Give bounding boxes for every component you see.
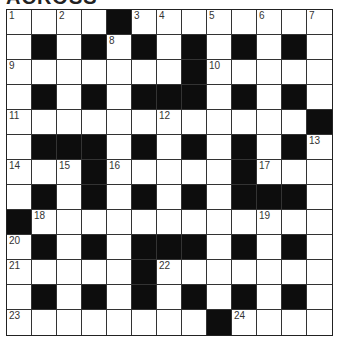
grid-cell[interactable]: 15 xyxy=(57,160,82,185)
grid-cell[interactable] xyxy=(107,210,132,235)
grid-cell[interactable] xyxy=(307,310,332,335)
grid-cell[interactable] xyxy=(107,60,132,85)
grid-cell[interactable] xyxy=(132,310,157,335)
grid-cell[interactable] xyxy=(157,210,182,235)
grid-cell[interactable] xyxy=(7,85,32,110)
grid-cell[interactable] xyxy=(182,10,207,35)
grid-cell[interactable] xyxy=(207,260,232,285)
grid-cell[interactable] xyxy=(307,60,332,85)
grid-cell[interactable] xyxy=(232,260,257,285)
grid-cell[interactable] xyxy=(257,235,282,260)
grid-cell[interactable] xyxy=(282,160,307,185)
grid-cell[interactable] xyxy=(82,60,107,85)
grid-cell[interactable]: 14 xyxy=(7,160,32,185)
grid-cell[interactable] xyxy=(57,60,82,85)
grid-cell[interactable]: 5 xyxy=(207,10,232,35)
grid-cell[interactable]: 9 xyxy=(7,60,32,85)
grid-cell[interactable]: 12 xyxy=(157,110,182,135)
grid-cell[interactable]: 21 xyxy=(7,260,32,285)
grid-cell[interactable] xyxy=(107,110,132,135)
grid-cell[interactable] xyxy=(157,60,182,85)
grid-cell[interactable] xyxy=(57,35,82,60)
grid-cell[interactable]: 19 xyxy=(257,210,282,235)
grid-cell[interactable] xyxy=(7,135,32,160)
grid-cell[interactable]: 1 xyxy=(7,10,32,35)
grid-cell[interactable]: 22 xyxy=(157,260,182,285)
grid-cell[interactable] xyxy=(257,285,282,310)
grid-cell[interactable] xyxy=(132,160,157,185)
grid-cell[interactable]: 18 xyxy=(32,210,57,235)
grid-cell[interactable]: 23 xyxy=(7,310,32,335)
grid-cell[interactable] xyxy=(107,235,132,260)
grid-cell[interactable] xyxy=(82,310,107,335)
grid-cell[interactable] xyxy=(207,185,232,210)
grid-cell[interactable] xyxy=(257,310,282,335)
grid-cell[interactable] xyxy=(32,60,57,85)
grid-cell[interactable] xyxy=(257,110,282,135)
grid-cell[interactable] xyxy=(257,85,282,110)
grid-cell[interactable] xyxy=(182,210,207,235)
grid-cell[interactable] xyxy=(132,60,157,85)
grid-cell[interactable] xyxy=(307,160,332,185)
grid-cell[interactable] xyxy=(232,210,257,235)
grid-cell[interactable] xyxy=(57,235,82,260)
grid-cell[interactable]: 8 xyxy=(107,35,132,60)
grid-cell[interactable] xyxy=(207,160,232,185)
grid-cell[interactable]: 2 xyxy=(57,10,82,35)
grid-cell[interactable] xyxy=(157,35,182,60)
grid-cell[interactable] xyxy=(207,210,232,235)
grid-cell[interactable] xyxy=(157,285,182,310)
grid-cell[interactable] xyxy=(32,110,57,135)
grid-cell[interactable]: 10 xyxy=(207,60,232,85)
grid-cell[interactable] xyxy=(307,85,332,110)
grid-cell[interactable]: 3 xyxy=(132,10,157,35)
grid-cell[interactable] xyxy=(32,10,57,35)
grid-cell[interactable]: 13 xyxy=(307,135,332,160)
grid-cell[interactable] xyxy=(157,185,182,210)
grid-cell[interactable]: 11 xyxy=(7,110,32,135)
grid-cell[interactable] xyxy=(207,110,232,135)
grid-cell[interactable] xyxy=(207,235,232,260)
grid-cell[interactable] xyxy=(82,10,107,35)
grid-cell[interactable] xyxy=(307,185,332,210)
grid-cell[interactable] xyxy=(182,260,207,285)
grid-cell[interactable] xyxy=(207,85,232,110)
grid-cell[interactable] xyxy=(57,210,82,235)
grid-cell[interactable] xyxy=(132,110,157,135)
grid-cell[interactable] xyxy=(282,110,307,135)
grid-cell[interactable] xyxy=(7,285,32,310)
grid-cell[interactable] xyxy=(57,110,82,135)
grid-cell[interactable] xyxy=(132,210,157,235)
grid-cell[interactable]: 16 xyxy=(107,160,132,185)
grid-cell[interactable] xyxy=(107,285,132,310)
grid-cell[interactable]: 6 xyxy=(257,10,282,35)
grid-cell[interactable] xyxy=(307,35,332,60)
grid-cell[interactable] xyxy=(207,285,232,310)
grid-cell[interactable] xyxy=(57,285,82,310)
grid-cell[interactable]: 17 xyxy=(257,160,282,185)
grid-cell[interactable] xyxy=(57,85,82,110)
grid-cell[interactable] xyxy=(282,210,307,235)
grid-cell[interactable] xyxy=(207,135,232,160)
grid-cell[interactable] xyxy=(157,135,182,160)
grid-cell[interactable] xyxy=(307,260,332,285)
grid-cell[interactable] xyxy=(232,60,257,85)
grid-cell[interactable] xyxy=(182,110,207,135)
grid-cell[interactable] xyxy=(32,310,57,335)
grid-cell[interactable] xyxy=(182,160,207,185)
grid-cell[interactable] xyxy=(107,260,132,285)
grid-cell[interactable] xyxy=(257,260,282,285)
grid-cell[interactable] xyxy=(107,310,132,335)
grid-cell[interactable] xyxy=(257,35,282,60)
grid-cell[interactable] xyxy=(57,260,82,285)
grid-cell[interactable] xyxy=(232,10,257,35)
grid-cell[interactable] xyxy=(82,110,107,135)
grid-cell[interactable] xyxy=(207,35,232,60)
grid-cell[interactable] xyxy=(282,60,307,85)
grid-cell[interactable] xyxy=(82,210,107,235)
grid-cell[interactable] xyxy=(32,160,57,185)
grid-cell[interactable] xyxy=(307,285,332,310)
grid-cell[interactable] xyxy=(7,185,32,210)
grid-cell[interactable]: 20 xyxy=(7,235,32,260)
grid-cell[interactable] xyxy=(307,235,332,260)
